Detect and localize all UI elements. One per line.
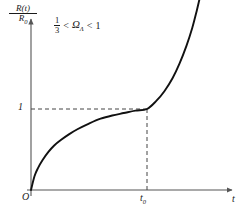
annotation-fraction-denominator: 3 bbox=[54, 26, 60, 35]
annotation-upper-bound: 1 bbox=[95, 20, 100, 31]
annotation-omega-symbol: ΩΛ bbox=[72, 18, 84, 32]
y-axis-label: R(t) R0 bbox=[6, 4, 40, 26]
y-axis-label-denominator-subscript: 0 bbox=[24, 18, 27, 25]
annotation-less-than-right: < bbox=[87, 20, 93, 31]
omega-lambda-annotation: 1 3 < ΩΛ < 1 bbox=[54, 16, 100, 34]
x-tick-label-t0: t0 bbox=[140, 192, 146, 205]
annotation-omega-glyph: Ω bbox=[72, 18, 80, 30]
y-axis-label-numerator: R(t) bbox=[6, 4, 40, 13]
origin-label: O bbox=[22, 191, 29, 202]
x-tick-label-t0-subscript: 0 bbox=[143, 198, 146, 205]
x-axis-label: t bbox=[232, 193, 235, 204]
y-tick-label-1: 1 bbox=[18, 101, 23, 112]
annotation-omega-subscript: Λ bbox=[80, 25, 84, 32]
annotation-less-than-left: < bbox=[63, 20, 69, 31]
annotation-fraction: 1 3 bbox=[54, 16, 60, 34]
y-axis-label-denominator: R0 bbox=[6, 14, 40, 26]
chart-plot-area bbox=[0, 0, 246, 213]
annotation-fraction-numerator: 1 bbox=[54, 16, 60, 25]
